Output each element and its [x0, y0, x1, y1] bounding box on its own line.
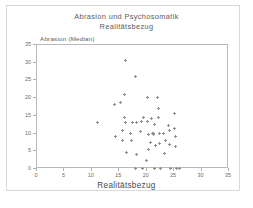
scatter-point: [168, 143, 171, 146]
scatter-point: [113, 103, 116, 106]
scatter-point: [146, 120, 149, 123]
scatter-point: [173, 127, 176, 130]
scatter-point: [123, 93, 126, 96]
scatter-point: [131, 121, 134, 124]
scatter-point: [173, 112, 176, 115]
scatter-point: [141, 167, 144, 170]
scatter-point: [140, 120, 143, 123]
chart-title-line-2: Realitätsbezug: [0, 22, 253, 32]
scatter-point: [154, 144, 157, 147]
scatter-point: [158, 142, 161, 145]
scatter-point: [163, 152, 166, 155]
scatter-point: [124, 59, 127, 62]
scatter-point: [129, 132, 132, 135]
scatter-point: [114, 135, 117, 138]
scatter-point: [139, 130, 142, 133]
scatter-point: [158, 132, 161, 135]
scatter-point: [135, 153, 138, 156]
y-axis-label: Abrasion (Median): [40, 35, 95, 42]
scatter-point: [121, 139, 124, 142]
scatter-point: [121, 129, 124, 132]
scatter-point: [152, 132, 155, 135]
scatter-point: [164, 139, 167, 142]
scatter-point: [134, 75, 137, 78]
scatter-point: [156, 96, 159, 99]
scatter-plot-figure: Abrasion und Psychosomatik Realitätsbezu…: [0, 0, 253, 208]
scatter-point: [153, 167, 156, 170]
scatter-point: [146, 96, 149, 99]
scatter-point: [150, 117, 153, 120]
chart-title: Abrasion und Psychosomatik Realitätsbezu…: [0, 12, 253, 31]
scatter-point: [174, 135, 177, 138]
plot-area: [36, 44, 228, 168]
scatter-point: [119, 101, 122, 104]
scatter-point: [169, 167, 172, 170]
scatter-point: [157, 107, 160, 110]
chart-title-line-1: Abrasion und Psychosomatik: [0, 12, 253, 22]
scatter-point: [149, 141, 152, 144]
scatter-point: [153, 123, 156, 126]
scatter-point: [167, 124, 170, 127]
scatter-point: [157, 116, 160, 119]
scatter-point: [134, 167, 137, 170]
scatter-point: [96, 121, 99, 124]
scatter-point: [159, 167, 162, 170]
x-axis-label: Realitätsbezug: [0, 181, 253, 190]
scatter-point: [162, 132, 165, 135]
scatter-point: [135, 121, 138, 124]
scatter-point: [124, 121, 127, 124]
scatter-point: [125, 151, 128, 154]
scatter-point: [178, 167, 181, 170]
scatter-point: [147, 133, 150, 136]
scatter-point: [142, 116, 145, 119]
scatter-point: [147, 148, 150, 151]
scatter-point: [174, 145, 177, 148]
scatter-point: [123, 116, 126, 119]
scatter-point: [168, 129, 171, 132]
scatter-points-layer: [37, 45, 227, 167]
scatter-point: [145, 159, 148, 162]
scatter-point: [130, 139, 133, 142]
